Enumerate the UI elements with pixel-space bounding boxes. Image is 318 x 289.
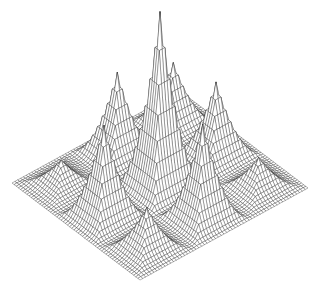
surface-plot	[0, 0, 318, 289]
mesh	[12, 12, 308, 281]
wireframe-surface	[0, 0, 318, 289]
